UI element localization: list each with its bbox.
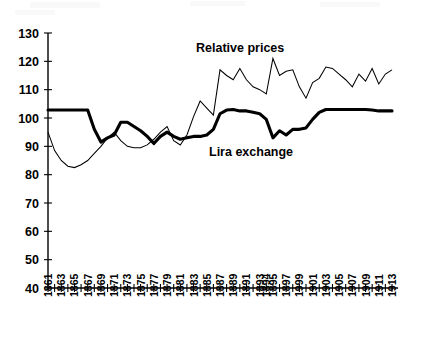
y-axis-tick-label: 130 — [18, 27, 39, 41]
x-axis-tick-label: 1885 — [201, 273, 213, 297]
x-axis-tick-label: 1861 — [42, 273, 54, 297]
x-axis-tick-label: 1871 — [108, 273, 120, 297]
x-axis-tick-label: 1881 — [174, 273, 186, 297]
x-axis-tick-label: 1901 — [307, 273, 319, 297]
x-axis-tick-label: 1879 — [161, 273, 173, 297]
y-axis: 130120110100908070605040 — [18, 27, 52, 296]
y-axis-tick-label: 70 — [25, 197, 39, 211]
y-axis-tick-label: 120 — [18, 55, 39, 69]
x-axis-tick-label: 1883 — [188, 273, 200, 297]
x-axis-tick-label: 1903 — [320, 273, 332, 297]
y-axis-tick-label: 110 — [19, 83, 39, 97]
y-axis-tick-label: 90 — [25, 140, 39, 154]
y-axis-tick-label: 60 — [25, 225, 39, 239]
series-annotations: Relative pricesLira exchange — [196, 41, 293, 159]
x-axis-tick-label: 1887 — [214, 273, 226, 297]
x-axis-tick-label: 1913 — [386, 273, 398, 297]
x-axis-tick-label: 1891 — [240, 273, 252, 297]
x-axis-tick-label: 1897 — [280, 273, 292, 297]
x-axis-tick-label: 1877 — [148, 273, 160, 297]
chart-figure: 130120110100908070605040 186118631865186… — [0, 0, 430, 344]
x-axis-tick-label: 1999 — [293, 273, 305, 297]
x-axis-tick-label: 1905 — [333, 273, 345, 297]
x-axis-tick-label: 1911 — [373, 274, 385, 297]
series-label-lira-exchange: Lira exchange — [209, 145, 293, 159]
series-line-lira-exchange — [48, 110, 392, 144]
series-label-relative-prices: Relative prices — [196, 41, 284, 55]
y-axis-tick-label: 100 — [18, 112, 39, 126]
x-axis-tick-label: 1865 — [68, 273, 80, 297]
x-axis-tick-label: 1909 — [360, 273, 372, 297]
x-axis-tick-label: 1907 — [346, 273, 358, 297]
y-axis-tick-label: 50 — [25, 253, 39, 267]
line-chart-plot: 130120110100908070605040 186118631865186… — [0, 0, 430, 344]
y-axis-tick-label: 40 — [25, 282, 39, 296]
y-axis-tick-label: 80 — [25, 168, 39, 182]
x-axis-tick-label: 1873 — [121, 273, 133, 297]
x-axis: 1861186318651867186918711873187518771879… — [42, 273, 398, 297]
x-axis-tick-label: 1867 — [82, 273, 94, 297]
x-axis-tick-label: 1863 — [55, 273, 67, 297]
x-axis-tick-label: 1875 — [135, 273, 147, 297]
x-axis-tick-label: 1869 — [95, 273, 107, 297]
x-axis-tick-label: 1889 — [227, 273, 239, 297]
x-axis-tick-label: 1895 — [267, 273, 279, 297]
